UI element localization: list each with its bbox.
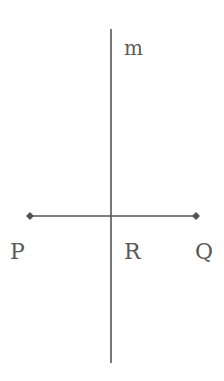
endpoint-p-marker-icon [26,212,34,220]
label-r: R [124,239,142,264]
label-q: Q [195,239,213,264]
endpoint-q-marker-icon [192,212,200,220]
label-m: m [124,36,143,60]
perpendicular-bisector-diagram: m P R Q [0,0,224,381]
label-p: P [10,239,25,264]
